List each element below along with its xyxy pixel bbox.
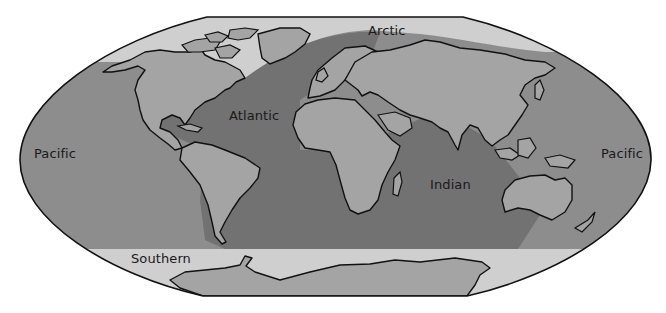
map-graphic	[0, 0, 666, 313]
label-indian: Indian	[430, 177, 471, 192]
label-pacific-west: Pacific	[34, 146, 76, 161]
label-southern: Southern	[131, 251, 191, 266]
label-atlantic: Atlantic	[229, 108, 279, 123]
label-pacific-east: Pacific	[601, 146, 643, 161]
label-arctic: Arctic	[368, 23, 406, 38]
world-ocean-map: Arctic Atlantic Pacific Pacific Indian S…	[0, 0, 666, 313]
